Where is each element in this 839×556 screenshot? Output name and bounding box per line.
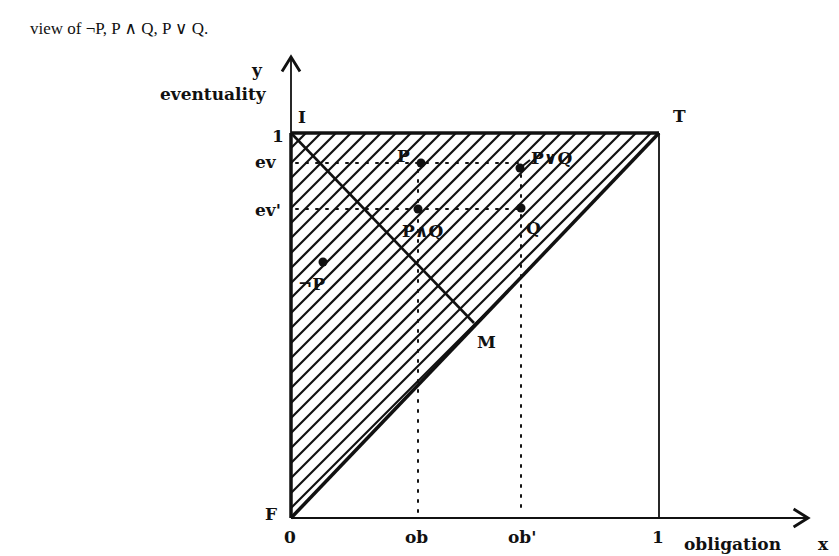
label-p: P — [397, 146, 410, 166]
x-tick-origin: 0 — [284, 527, 296, 547]
y-axis-label: eventuality — [160, 84, 267, 104]
corner-label-T: T — [673, 106, 686, 126]
bilattice-diagram: ¬P P P∧Q P∨Q Q I T F M y eventuality 1 e… — [0, 0, 839, 556]
point-p — [417, 159, 426, 168]
x-axis-symbol: x — [818, 534, 829, 554]
label-p-or-q: P∨Q — [531, 148, 573, 168]
corner-label-M: M — [477, 332, 496, 352]
y-axis-symbol: y — [251, 60, 263, 80]
point-not-p — [319, 258, 328, 267]
x-tick-one: 1 — [652, 527, 664, 547]
y-tick-ev: ev — [255, 152, 277, 172]
label-p-and-q: P∧Q — [402, 221, 444, 241]
x-axis-label: obligation — [684, 534, 781, 554]
label-q: Q — [526, 218, 541, 238]
x-tick-ob: ob — [405, 527, 428, 547]
x-tick-ob-prime: ob' — [508, 527, 536, 547]
y-tick-ev-prime: ev' — [255, 200, 281, 220]
y-tick-one: 1 — [272, 126, 284, 146]
label-not-p: ¬P — [298, 274, 325, 294]
point-p-and-q — [414, 205, 423, 214]
corner-label-F: F — [265, 504, 277, 524]
corner-label-I: I — [298, 107, 306, 127]
point-q — [517, 204, 526, 213]
